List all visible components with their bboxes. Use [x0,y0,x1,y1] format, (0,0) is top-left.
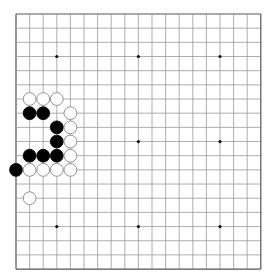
black-stone [37,107,50,120]
white-stone [64,149,77,162]
white-stone [37,163,50,176]
white-stone [37,93,50,106]
white-stone [64,163,77,176]
black-stone [10,163,23,176]
star-point [55,55,58,58]
black-stone [50,149,63,162]
star-point [218,225,221,228]
white-stone [64,121,77,134]
white-stone [50,163,63,176]
star-point [55,225,58,228]
black-stone [23,149,36,162]
star-point [137,225,140,228]
white-stone [23,93,36,106]
go-board[interactable] [0,0,274,279]
white-stone [23,192,36,205]
star-point [137,55,140,58]
star-point [137,140,140,143]
black-stone [37,149,50,162]
white-stone [23,163,36,176]
black-stone [23,107,36,120]
white-stone [50,93,63,106]
star-point [218,55,221,58]
black-stone [50,135,63,148]
white-stone [64,135,77,148]
white-stone [64,107,77,120]
star-point [218,140,221,143]
black-stone [50,121,63,134]
